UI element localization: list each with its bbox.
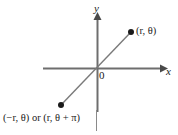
y-axis-label: y — [94, 3, 99, 14]
point-label-lower-left: (−r, θ) or (r, θ + π) — [3, 113, 80, 124]
origin-label: 0 — [99, 70, 105, 81]
polar-coordinate-figure: x y 0 (r, θ) (−r, θ) or (r, θ + π) — [0, 0, 178, 135]
x-axis-label: x — [166, 66, 171, 77]
point-marker-lower-left — [58, 102, 64, 108]
x-axis — [43, 65, 168, 73]
y-axis — [94, 12, 102, 112]
point-label-upper-right: (r, θ) — [136, 26, 156, 37]
point-marker-upper-right — [128, 29, 134, 35]
